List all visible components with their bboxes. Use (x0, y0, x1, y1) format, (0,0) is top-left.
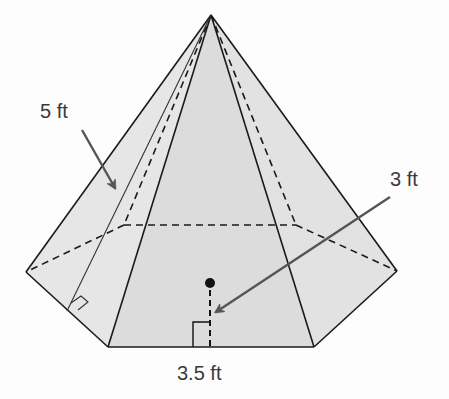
pyramid-svg: 5 ft 3 ft 3.5 ft (0, 0, 449, 399)
base-edge-label: 3.5 ft (177, 362, 222, 384)
apothem-label: 3 ft (390, 168, 418, 190)
pyramid-diagram: 5 ft 3 ft 3.5 ft (0, 0, 449, 399)
base-center-dot (205, 278, 215, 288)
slant-height-label: 5 ft (40, 100, 68, 122)
